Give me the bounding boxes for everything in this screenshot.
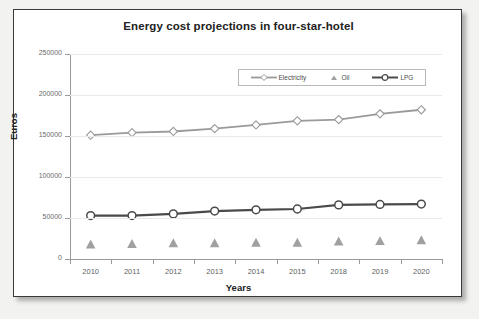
chart-page: Energy cost projections in four-star-hot… (0, 0, 479, 319)
x-tick-label: 2018 (319, 267, 359, 276)
data-point-oil (127, 239, 137, 248)
y-tick-label: 100000 (39, 172, 62, 179)
x-tick-mark (442, 259, 443, 264)
data-point-electricity (252, 121, 260, 129)
gridline (70, 218, 442, 219)
x-tick-mark (194, 259, 195, 264)
data-point-lpg (293, 205, 301, 213)
gridline (70, 136, 442, 137)
data-point-electricity (211, 125, 219, 133)
data-point-oil (251, 238, 261, 247)
x-tick-label: 2019 (360, 267, 400, 276)
x-tick-label: 2013 (195, 267, 235, 276)
y-tick-label-wrap: 250000 (14, 49, 62, 59)
x-axis-line (70, 259, 443, 260)
legend-label-oil: Oil (341, 74, 349, 81)
data-point-electricity (293, 117, 301, 125)
gridline (70, 177, 442, 178)
x-tick-label: 2011 (112, 267, 152, 276)
legend-label-lpg: LPG (400, 74, 413, 81)
data-point-oil (169, 238, 179, 247)
data-point-oil (334, 237, 344, 246)
y-tick-label: 150000 (39, 131, 62, 138)
x-tick-mark (401, 259, 402, 264)
data-point-lpg (376, 201, 384, 209)
y-tick-label-wrap: 0 (14, 254, 62, 264)
chart-frame: Energy cost projections in four-star-hot… (13, 9, 462, 297)
x-tick-mark (235, 259, 236, 264)
data-point-lpg (417, 200, 425, 208)
x-tick-mark (277, 259, 278, 264)
x-tick-mark (359, 259, 360, 264)
gridline (70, 54, 442, 55)
gridline (70, 95, 442, 96)
data-point-oil (375, 236, 385, 245)
oil-triangle-icon (329, 73, 339, 82)
x-tick-label: 2012 (153, 267, 193, 276)
x-tick-mark (111, 259, 112, 264)
y-tick-label-wrap: 50000 (14, 213, 62, 223)
y-tick-label: 200000 (39, 90, 62, 97)
x-tick-mark (70, 259, 71, 264)
x-tick-label: 2014 (236, 267, 276, 276)
chart-legend: Electricity Oil LPG (238, 69, 426, 86)
x-tick-label: 2015 (277, 267, 317, 276)
data-point-oil (293, 238, 303, 247)
x-tick-label: 2010 (71, 267, 111, 276)
x-tick-mark (318, 259, 319, 264)
chart-title: Energy cost projections in four-star-hot… (14, 20, 463, 32)
data-point-lpg (252, 206, 260, 214)
y-tick-label-wrap: 150000 (14, 131, 62, 141)
data-point-oil (86, 239, 96, 248)
data-point-oil (417, 235, 427, 244)
legend-item-oil[interactable]: Oil (329, 73, 349, 82)
data-point-lpg (211, 207, 219, 215)
y-tick-label: 50000 (43, 213, 62, 220)
y-tick-label-wrap: 100000 (14, 172, 62, 182)
x-axis-title: Years (14, 282, 463, 293)
data-point-electricity (169, 127, 177, 135)
legend-label-electricity: Electricity (279, 74, 307, 81)
legend-item-electricity[interactable]: Electricity (251, 73, 307, 82)
data-point-electricity (417, 106, 425, 114)
y-tick-label: 0 (58, 254, 62, 261)
x-tick-label: 2020 (401, 267, 441, 276)
electricity-line-icon (251, 73, 277, 82)
y-tick-label: 250000 (39, 49, 62, 56)
y-tick-label-wrap: 200000 (14, 90, 62, 100)
data-point-electricity (335, 116, 343, 124)
x-tick-mark (153, 259, 154, 264)
data-point-lpg (335, 201, 343, 209)
legend-item-lpg[interactable]: LPG (372, 73, 413, 82)
data-point-oil (210, 238, 220, 247)
data-point-electricity (376, 110, 384, 118)
data-point-lpg (169, 210, 177, 218)
lpg-line-icon (372, 73, 398, 82)
